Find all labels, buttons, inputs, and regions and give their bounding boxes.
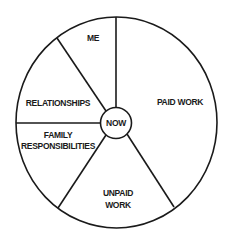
segment-label-paid-work: PAID WORK [157, 97, 204, 107]
center-label: NOW [106, 118, 127, 128]
life-wheel-diagram: NOW ME PAID WORK UNPAID WORK FAMILY RESP… [0, 0, 229, 243]
segment-label-relationships: RELATIONSHIPS [26, 98, 91, 108]
divider-unpaid-paid [127, 134, 174, 207]
segment-label-family-line1: FAMILY [44, 130, 73, 140]
segment-label-unpaid-line2: WORK [105, 200, 132, 210]
segment-label-unpaid-line1: UNPAID [103, 188, 133, 198]
segment-label-family-line2: RESPONSIBILITIES [21, 141, 96, 151]
segment-label-me: ME [87, 33, 100, 43]
